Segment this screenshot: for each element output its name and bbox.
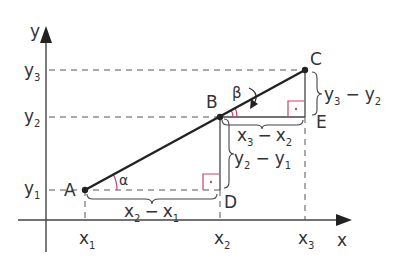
point-A bbox=[82, 187, 88, 193]
x-axis-arrow-icon bbox=[336, 214, 352, 226]
angle-arcs bbox=[113, 108, 237, 190]
label-x2-minus-x1: x2−x1 bbox=[124, 201, 179, 224]
label-E: E bbox=[316, 112, 327, 132]
x-tick-2: x2 bbox=[214, 228, 230, 251]
label-C: C bbox=[310, 49, 322, 69]
y-tick-1: y1 bbox=[24, 178, 40, 201]
line-ABC bbox=[85, 70, 305, 190]
brace-y3-y2-icon bbox=[312, 72, 322, 115]
label-B: B bbox=[206, 92, 218, 112]
point-B bbox=[217, 114, 223, 120]
alpha-arc-icon bbox=[113, 174, 117, 190]
slope-diagram: x y α β A B C D E y bbox=[0, 0, 403, 267]
y-axis-arrow-icon bbox=[40, 26, 52, 43]
y-tick-3: y3 bbox=[24, 60, 40, 83]
label-D: D bbox=[224, 192, 237, 212]
y-axis-label: y bbox=[30, 21, 40, 41]
label-y3-minus-y2: y3−y2 bbox=[324, 84, 381, 107]
x-axis-label: x bbox=[337, 230, 347, 250]
x-tick-3: x3 bbox=[298, 228, 314, 251]
label-A: A bbox=[64, 180, 76, 200]
point-C bbox=[302, 67, 308, 73]
alpha-label: α bbox=[119, 172, 128, 188]
x-tick-1: x1 bbox=[79, 228, 95, 251]
y-tick-2: y2 bbox=[24, 106, 40, 129]
x-tick-labels: x1 x2 x3 bbox=[79, 228, 314, 251]
beta-label: β bbox=[232, 84, 242, 102]
brace-y2-y1-icon bbox=[224, 119, 234, 188]
guide-lines bbox=[49, 70, 305, 220]
label-y2-minus-y1: y2−y1 bbox=[234, 148, 291, 171]
label-x3-minus-x2: x3−x2 bbox=[237, 125, 292, 148]
y-tick-labels: y3 y2 y1 bbox=[24, 60, 40, 201]
